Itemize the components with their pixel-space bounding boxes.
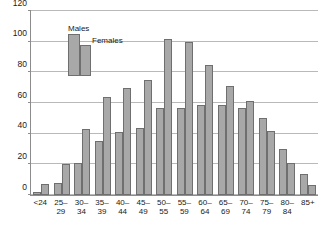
x-axis-tick-label: 80– 84 [277, 198, 298, 216]
y-axis-tick-label: 40 [18, 121, 27, 130]
bar-group [175, 11, 196, 195]
bar-females [41, 184, 49, 195]
bar-males [279, 149, 287, 195]
bar-females [123, 88, 131, 195]
bar-males [218, 105, 226, 195]
x-axis-tick-label: 75– 79 [256, 198, 277, 216]
bar-males [197, 105, 205, 195]
legend-label-males: Males [68, 25, 89, 33]
bar-males [54, 183, 62, 195]
bar-females [164, 39, 172, 195]
x-axis-tick-label: 85+ [298, 198, 319, 216]
plot-area: 020406080100120 Males Females [30, 11, 318, 196]
bar-group [154, 11, 175, 195]
bar-females [246, 101, 254, 195]
bar-males [136, 128, 144, 195]
bar-males [74, 163, 82, 195]
bar-chart: 020406080100120 Males Females <2425– 293… [0, 0, 326, 225]
x-axis-labels: <2425– 2930– 3435– 3940– 4445– 4950– 555… [30, 198, 318, 216]
y-axis-tick-label: 100 [13, 29, 27, 38]
bar-males [33, 192, 41, 195]
x-axis-tick-label: 45– 49 [133, 198, 154, 216]
bar-group [236, 11, 257, 195]
bar-females [103, 97, 111, 195]
legend-label-females: Females [92, 37, 123, 45]
x-axis-tick-label: 55– 59 [174, 198, 195, 216]
bar-females [226, 86, 234, 195]
bar-females [308, 185, 316, 195]
bar-males [177, 108, 185, 195]
bar-males [259, 118, 267, 195]
legend-swatch-males [68, 34, 80, 76]
y-axis-tick-label: 60 [18, 90, 27, 99]
x-axis-tick-label: 50– 55 [153, 198, 174, 216]
y-axis-tick-label: 20 [18, 152, 27, 161]
bar-group [257, 11, 278, 195]
y-axis-tick-label: 120 [13, 0, 27, 7]
x-axis-tick-label: 35– 39 [92, 198, 113, 216]
bar-males [95, 141, 103, 195]
bar-group [31, 11, 52, 195]
bar-group [277, 11, 298, 195]
bar-females [185, 42, 193, 195]
x-axis-tick-label: 70– 74 [236, 198, 257, 216]
x-axis-tick-label: <24 [30, 198, 51, 216]
bar-females [82, 129, 90, 195]
bar-females [205, 65, 213, 195]
x-axis-tick-label: 60– 64 [195, 198, 216, 216]
bar-males [156, 108, 164, 195]
bar-group [216, 11, 237, 195]
y-axis-tick-label: 0 [22, 182, 27, 191]
bar-females [144, 80, 152, 195]
legend-swatch-females [80, 45, 91, 76]
bar-group [298, 11, 319, 195]
bar-females [267, 131, 275, 195]
x-axis-tick-label: 40– 44 [112, 198, 133, 216]
bar-males [300, 174, 308, 195]
bar-females [287, 163, 295, 195]
bar-males [115, 132, 123, 195]
bar-group [195, 11, 216, 195]
y-axis-tick-label: 80 [18, 60, 27, 69]
x-axis-tick-label: 30– 34 [71, 198, 92, 216]
chart-legend: Males Females [68, 25, 148, 77]
x-axis-tick-label: 25– 29 [51, 198, 72, 216]
bar-males [238, 108, 246, 195]
x-axis-tick-label: 65– 69 [215, 198, 236, 216]
bar-females [62, 164, 70, 195]
